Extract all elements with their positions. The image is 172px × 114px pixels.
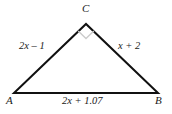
vertex-label-c: C: [82, 3, 89, 14]
triangle-outline: [14, 24, 158, 93]
side-label-ac: 2x – 1: [19, 41, 45, 52]
triangle-figure: C A B 2x – 1 x + 2 2x + 1.07: [0, 0, 172, 114]
vertex-label-b: B: [155, 95, 162, 106]
vertex-label-a: A: [6, 95, 13, 106]
side-label-cb: x + 2: [118, 41, 140, 52]
side-label-ab: 2x + 1.07: [62, 96, 103, 107]
